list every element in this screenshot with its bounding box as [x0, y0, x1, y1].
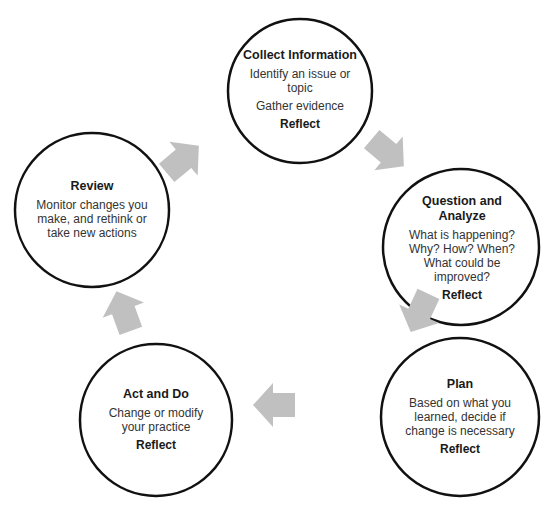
arrow-up-left-icon	[96, 284, 152, 339]
node-body: Monitor changes you make, and rethink or…	[30, 198, 154, 240]
node-title: Review	[70, 179, 113, 194]
node-collect-information: Collect Information Identify an issue or…	[238, 40, 362, 140]
node-reflect: Reflect	[440, 442, 480, 457]
node-body: Gather evidence	[256, 99, 344, 113]
node-title: Collect Information	[243, 48, 357, 63]
node-question-analyze: Question and Analyze What is happening? …	[403, 185, 521, 311]
node-title: Plan	[447, 377, 473, 392]
node-plan: Plan Based on what you learned, decide i…	[395, 370, 525, 464]
node-act-and-do: Act and Do Change or modify your practic…	[103, 380, 209, 460]
arrow-left-icon	[253, 383, 295, 427]
node-reflect: Reflect	[442, 288, 482, 303]
node-body: Change or modify your practice	[103, 406, 209, 434]
arrow-down-right-icon	[358, 122, 418, 183]
node-body: Identify an issue or topic	[238, 67, 362, 95]
node-title: Act and Do	[123, 387, 189, 402]
node-body: What is happening? Why? How? When? What …	[403, 228, 521, 284]
node-title: Question and Analyze	[403, 194, 521, 224]
node-review: Review Monitor changes you make, and ret…	[30, 176, 154, 246]
node-reflect: Reflect	[136, 438, 176, 453]
node-reflect: Reflect	[280, 117, 320, 132]
node-body: Based on what you learned, decide if cha…	[395, 396, 525, 438]
